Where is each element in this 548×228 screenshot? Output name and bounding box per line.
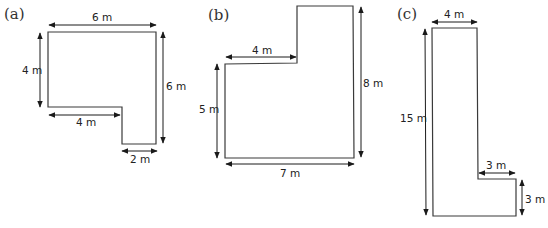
figure-a-bottom-dim: 2 m — [130, 153, 150, 165]
composite-shapes-diagram: (a) 6 m 4 m 6 m 4 m 2 m (b) 4 m 5 m 8 m … — [0, 0, 548, 228]
figure-b-label: (b) — [208, 6, 229, 24]
figure-b-inner-dim: 4 m — [252, 44, 272, 56]
figure-a-label: (a) — [4, 5, 25, 23]
figure-c: (c) 4 m 15 m 3 m 3 m — [397, 5, 545, 216]
figure-a-right-dim: 6 m — [166, 80, 186, 92]
figure-a-outline — [48, 32, 156, 144]
figure-c-label: (c) — [397, 5, 417, 23]
figure-b-outline — [225, 6, 354, 158]
figure-c-right-dim: 3 m — [525, 193, 545, 205]
figure-c-outline — [432, 28, 516, 216]
figure-b-right-dim: 8 m — [363, 77, 383, 89]
figure-a-top-dim: 6 m — [92, 11, 112, 23]
figure-b-bottom-dim: 7 m — [280, 167, 300, 179]
figure-a-left-dim: 4 m — [22, 64, 42, 76]
figure-c-top-dim: 4 m — [444, 8, 464, 20]
figure-b-left-dim: 5 m — [199, 103, 219, 115]
figure-a: (a) 6 m 4 m 6 m 4 m 2 m — [4, 5, 186, 165]
figure-c-left-dim: 15 m — [400, 112, 427, 124]
figure-c-inner-dim: 3 m — [486, 159, 506, 171]
figure-b: (b) 4 m 5 m 8 m 7 m — [199, 6, 383, 179]
figure-a-inner-dim: 4 m — [76, 116, 96, 128]
